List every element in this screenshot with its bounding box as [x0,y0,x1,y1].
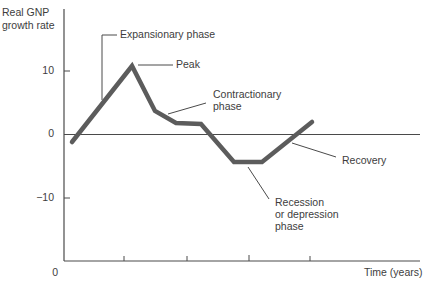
x-axis-label: Time (years) [364,266,423,279]
y-tick-label-0: 0 [14,127,54,139]
annotation-recovery: Recovery [342,154,386,167]
annotation-contractionary-line2: phase [213,100,242,113]
recovery-leader [292,143,336,157]
y-tick-label-neg10: −10 [14,191,54,203]
gnp-growth-line [72,66,312,162]
annotation-peak: Peak [176,58,200,71]
annotation-recession-line3: phase [275,220,304,233]
chart-canvas [0,0,428,287]
y-tick-label-10: 10 [14,64,54,76]
y-axis-label-line1: Real GNP [2,6,49,19]
annotation-expansionary: Expansionary phase [120,28,215,41]
y-axis-label-line2: growth rate [2,19,55,32]
contractionary-leader [168,103,206,114]
recession-leader [248,167,269,199]
origin-label: 0 [18,266,58,278]
